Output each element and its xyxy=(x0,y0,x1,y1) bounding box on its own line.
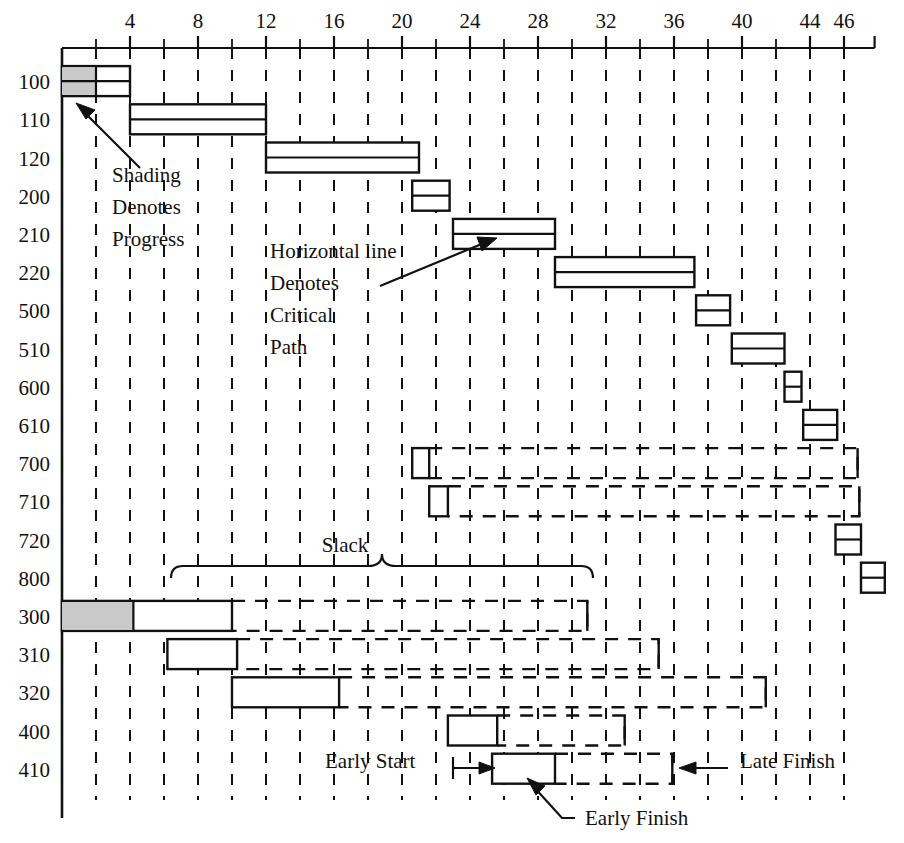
axis-tick-label: 44 xyxy=(800,9,822,33)
task-bar-710[interactable] xyxy=(429,486,859,516)
task-bar-500[interactable] xyxy=(696,295,730,325)
shading-annotation-line: Progress xyxy=(112,227,184,251)
axis-tick-label: 32 xyxy=(596,9,617,33)
axis-tick-label: 8 xyxy=(193,9,204,33)
row-label-800: 800 xyxy=(19,567,51,591)
axis-tick-label: 46 xyxy=(834,9,855,33)
slack-bar xyxy=(429,448,857,478)
task-bar-210[interactable] xyxy=(453,219,555,249)
row-label-610: 610 xyxy=(19,414,51,438)
task-bar-720[interactable] xyxy=(836,525,862,555)
slack-bar xyxy=(448,486,859,516)
task-bar-110[interactable] xyxy=(130,104,266,134)
early-finish-label: Early Finish xyxy=(585,806,689,830)
row-labels-group: 1001101202002102205005106006107007107208… xyxy=(19,70,51,782)
task-bar-200[interactable] xyxy=(412,181,449,211)
progress-shading xyxy=(62,602,133,630)
axis-tick-label: 20 xyxy=(392,9,413,33)
duration-box xyxy=(412,448,429,478)
critical-path-annotation-line: Critical xyxy=(270,303,333,327)
task-bar-220[interactable] xyxy=(555,257,694,287)
duration-box xyxy=(167,639,237,669)
task-bars-group xyxy=(62,66,885,784)
row-label-700: 700 xyxy=(19,452,51,476)
row-label-710: 710 xyxy=(19,490,51,514)
duration-box xyxy=(448,716,497,746)
slack-bar xyxy=(232,601,587,631)
task-bar-120[interactable] xyxy=(266,143,419,173)
early-start-label: Early Start xyxy=(325,749,416,773)
critical-path-annotation-line: Denotes xyxy=(270,271,339,295)
duration-box xyxy=(232,677,339,707)
duration-box xyxy=(492,754,555,784)
time-axis-group xyxy=(62,36,875,818)
slack-label: Slack xyxy=(322,533,369,557)
axis-tick-label: 40 xyxy=(732,9,753,33)
task-bar-510[interactable] xyxy=(732,334,785,364)
row-label-210: 210 xyxy=(19,223,51,247)
row-label-110: 110 xyxy=(19,108,50,132)
axis-tick-labels-group: 4812162024283236404446 xyxy=(125,9,855,33)
row-label-120: 120 xyxy=(19,147,51,171)
axis-tick-label: 12 xyxy=(256,9,277,33)
slack-bar xyxy=(339,677,766,707)
row-label-220: 220 xyxy=(19,261,51,285)
late-finish-label: Late Finish xyxy=(740,749,836,773)
row-label-510: 510 xyxy=(19,338,51,362)
row-label-600: 600 xyxy=(19,376,51,400)
late-finish-arrowhead xyxy=(679,762,696,774)
axis-tick-label: 24 xyxy=(460,9,482,33)
axis-tick-label: 28 xyxy=(528,9,549,33)
shading-annotation-line: Denotes xyxy=(112,195,181,219)
axis-tick-label: 4 xyxy=(125,9,136,33)
task-bar-700[interactable] xyxy=(412,448,857,478)
task-bar-800[interactable] xyxy=(861,563,885,593)
axis-tick-label: 36 xyxy=(664,9,685,33)
row-label-400: 400 xyxy=(19,720,51,744)
gridlines-group xyxy=(96,48,844,800)
critical-path-annotation-line: Horizontal line xyxy=(270,239,397,263)
shading-annotation-line: Shading xyxy=(112,163,181,187)
duration-box xyxy=(429,486,448,516)
task-bar-610[interactable] xyxy=(803,410,837,440)
row-label-500: 500 xyxy=(19,299,51,323)
slack-brace xyxy=(171,554,593,578)
task-bar-410[interactable] xyxy=(492,754,672,784)
task-bar-400[interactable] xyxy=(448,716,625,746)
row-label-410: 410 xyxy=(19,758,51,782)
row-label-320: 320 xyxy=(19,681,51,705)
row-label-100: 100 xyxy=(19,70,51,94)
task-bar-300[interactable] xyxy=(62,601,587,631)
critical-path-annotation-line: Path xyxy=(270,335,308,359)
task-bar-310[interactable] xyxy=(167,639,658,669)
row-label-720: 720 xyxy=(19,529,51,553)
axis-tick-label: 16 xyxy=(324,9,345,33)
row-label-300: 300 xyxy=(19,605,51,629)
task-bar-320[interactable] xyxy=(232,677,766,707)
task-bar-100[interactable] xyxy=(62,66,130,96)
task-bar-600[interactable] xyxy=(785,372,802,402)
row-label-200: 200 xyxy=(19,185,51,209)
row-label-310: 310 xyxy=(19,643,51,667)
gantt-chart-canvas: 4812162024283236404446 10011012020021022… xyxy=(0,0,904,843)
gantt-chart-figure: 4812162024283236404446 10011012020021022… xyxy=(0,0,904,843)
shading-annotation-arrowhead xyxy=(76,103,95,119)
